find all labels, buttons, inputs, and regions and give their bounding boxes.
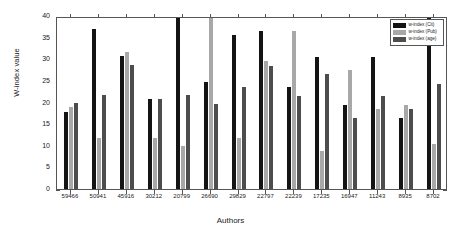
y-axis-tick-label: 25 — [42, 77, 50, 84]
bar — [214, 104, 218, 189]
bar — [181, 146, 185, 189]
bar — [232, 35, 236, 189]
bar — [259, 31, 263, 189]
bar — [74, 103, 78, 189]
chart-legend: w-index (Cit)w-index (Pub)w-index (age) — [390, 19, 444, 46]
y-axis-tick-mark — [56, 190, 60, 191]
x-axis-tick-mark-top — [210, 14, 211, 18]
x-axis-tick-mark-top — [238, 14, 239, 18]
y-axis-tick-label: 35 — [42, 34, 50, 41]
legend-item-label: w-index (age) — [409, 37, 437, 42]
bar — [264, 61, 268, 189]
legend-color-swatch — [393, 30, 406, 35]
bar — [348, 70, 352, 189]
x-axis-tick-mark — [377, 190, 378, 194]
bar — [381, 96, 385, 189]
bar — [325, 74, 329, 189]
bar — [120, 56, 124, 189]
bar — [237, 138, 241, 189]
x-axis-tick-mark-top — [349, 14, 350, 18]
legend-item-label: w-index (Pub) — [409, 30, 437, 35]
plot-area — [56, 17, 447, 190]
chart-figure: W-index value 0510152025303540 594665094… — [0, 0, 461, 238]
bar — [102, 95, 106, 189]
x-axis-tick-mark — [98, 190, 99, 194]
x-axis-tick-mark-top — [265, 14, 266, 18]
x-axis-tick-mark — [126, 190, 127, 194]
bar — [148, 99, 152, 189]
x-axis-tick-mark — [154, 190, 155, 194]
x-axis-tick-mark — [182, 190, 183, 194]
bar — [130, 65, 134, 189]
bar — [343, 105, 347, 189]
x-axis-tick-mark-top — [182, 14, 183, 18]
bar — [153, 138, 157, 189]
y-axis-title: W-index value — [12, 13, 21, 133]
x-axis-tick-mark-top — [98, 14, 99, 18]
y-axis-tick-label: 20 — [42, 99, 50, 106]
bar — [69, 107, 73, 189]
y-axis-tick-label: 0 — [46, 185, 50, 192]
y-axis-tick-label: 40 — [42, 12, 50, 19]
x-axis-tick-mark — [433, 190, 434, 194]
x-axis-tick-mark — [210, 190, 211, 194]
x-axis-tick-mark-top — [377, 14, 378, 18]
bar — [186, 95, 190, 189]
x-axis-tick-mark-top — [405, 14, 406, 18]
legend-color-swatch — [393, 23, 406, 28]
bar — [399, 118, 403, 189]
y-axis-tick-mark-right — [443, 190, 447, 191]
bar — [92, 29, 96, 189]
bar — [125, 52, 129, 189]
x-axis-tick-mark-top — [293, 14, 294, 18]
bar — [176, 17, 180, 189]
legend-item-label: w-index (Cit) — [409, 23, 435, 28]
x-axis-tick-mark — [293, 190, 294, 194]
bar — [409, 109, 413, 189]
x-axis-tick-mark — [70, 190, 71, 194]
x-axis-tick-mark — [405, 190, 406, 194]
bar — [320, 151, 324, 189]
bar — [158, 99, 162, 189]
bar — [209, 17, 213, 189]
bar — [242, 87, 246, 189]
bar — [353, 118, 357, 189]
bar — [297, 96, 301, 189]
bar — [371, 57, 375, 189]
bar — [64, 112, 68, 189]
bar — [376, 109, 380, 189]
x-axis-tick-mark-top — [126, 14, 127, 18]
bar — [437, 84, 441, 189]
y-axis-tick-label: 5 — [46, 163, 50, 170]
x-axis-tick-mark-top — [154, 14, 155, 18]
legend-item: w-index (Pub) — [393, 29, 441, 36]
legend-item: w-index (age) — [393, 36, 441, 43]
bar — [287, 87, 291, 189]
bar — [97, 138, 101, 189]
x-axis-tick-mark — [349, 190, 350, 194]
bar — [269, 66, 273, 189]
bar — [404, 105, 408, 189]
x-axis-tick-mark-top — [433, 14, 434, 18]
y-axis-tick-label: 10 — [42, 142, 50, 149]
bar — [292, 31, 296, 189]
legend-color-swatch — [393, 37, 406, 42]
bar — [315, 57, 319, 189]
bar — [204, 82, 208, 189]
x-axis-tick-mark-top — [70, 14, 71, 18]
legend-item: w-index (Cit) — [393, 22, 441, 29]
x-axis-tick-mark-top — [321, 14, 322, 18]
y-axis-tick-label: 30 — [42, 55, 50, 62]
y-axis-tick-label: 15 — [42, 120, 50, 127]
x-axis-title: Authors — [0, 216, 461, 225]
bar — [432, 144, 436, 189]
x-axis-tick-mark — [321, 190, 322, 194]
x-axis-tick-mark — [238, 190, 239, 194]
x-axis-tick-mark — [265, 190, 266, 194]
